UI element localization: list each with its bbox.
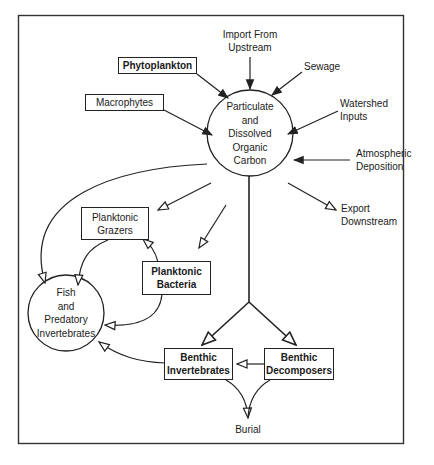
node-label: Grazers — [82, 224, 148, 237]
edge-bacteria-to-grazers — [143, 239, 158, 262]
phytoplankton-box: Phytoplankton — [118, 57, 197, 74]
node-line: Particulate — [210, 100, 290, 114]
label-line: Import From — [210, 28, 290, 41]
organic-carbon-node: Particulate and Dissolved Organic Carbon — [210, 100, 290, 168]
edge-benthic-invert-to-fish — [99, 342, 165, 363]
node-label: Decomposers — [265, 364, 333, 377]
edge-macrophytes — [164, 110, 212, 135]
node-label: Macrophytes — [86, 96, 163, 109]
node-label: Planktonic — [82, 211, 148, 224]
export-label: Export Downstream — [341, 202, 397, 228]
edge-phytoplankton — [197, 74, 228, 98]
fish-node: Fish and Predatory Invertebrates — [26, 286, 106, 340]
label-line: Downstream — [341, 215, 397, 228]
macrophytes-box: Macrophytes — [85, 94, 164, 111]
label-line: Inputs — [340, 110, 388, 123]
label-line: Burial — [228, 423, 268, 436]
node-line: Dissolved — [210, 127, 290, 141]
node-line: and — [210, 114, 290, 128]
watershed-label: Watershed Inputs — [340, 97, 388, 123]
benthic-decomposers-box: Benthic Decomposers — [264, 348, 334, 380]
node-line: Invertebrates — [26, 327, 106, 341]
label-line: Upstream — [210, 41, 290, 54]
node-label: Bacteria — [143, 278, 210, 291]
edge-bacteria-to-fish — [105, 294, 162, 325]
node-line: Carbon — [210, 154, 290, 168]
node-label: Benthic — [265, 351, 333, 364]
edge-to-benthic-decomp — [249, 302, 296, 345]
node-label: Invertebrates — [165, 364, 232, 377]
edge-export — [288, 183, 336, 210]
sewage-label: Sewage — [304, 60, 340, 73]
edge-to-benthic-invert — [202, 302, 249, 345]
burial-label: Burial — [228, 423, 268, 436]
node-line: and — [26, 300, 106, 314]
node-line: Predatory — [26, 313, 106, 327]
node-label: Planktonic — [143, 265, 210, 278]
diagram-canvas — [0, 0, 434, 465]
edge-watershed — [288, 111, 338, 134]
edge-to-bacteria — [199, 205, 226, 248]
label-line: Deposition — [356, 160, 412, 173]
node-line: Organic — [210, 141, 290, 155]
node-line: Fish — [26, 286, 106, 300]
atmospheric-label: Atmospheric Deposition — [356, 147, 412, 173]
label-line: Atmospheric — [356, 147, 412, 160]
edge-invert-to-burial — [226, 380, 248, 418]
label-line: Watershed — [340, 97, 388, 110]
import-label: Import From Upstream — [210, 28, 290, 54]
benthic-invertebrates-box: Benthic Invertebrates — [164, 348, 233, 380]
edge-to-grazers — [158, 183, 211, 210]
node-label: Benthic — [165, 351, 232, 364]
planktonic-bacteria-box: Planktonic Bacteria — [142, 261, 211, 295]
edge-sewage — [272, 72, 302, 95]
planktonic-grazers-box: Planktonic Grazers — [81, 207, 149, 240]
label-line: Export — [341, 202, 397, 215]
node-label: Phytoplankton — [119, 59, 196, 72]
edge-decomp-to-burial — [248, 380, 270, 418]
label-line: Sewage — [304, 60, 340, 73]
